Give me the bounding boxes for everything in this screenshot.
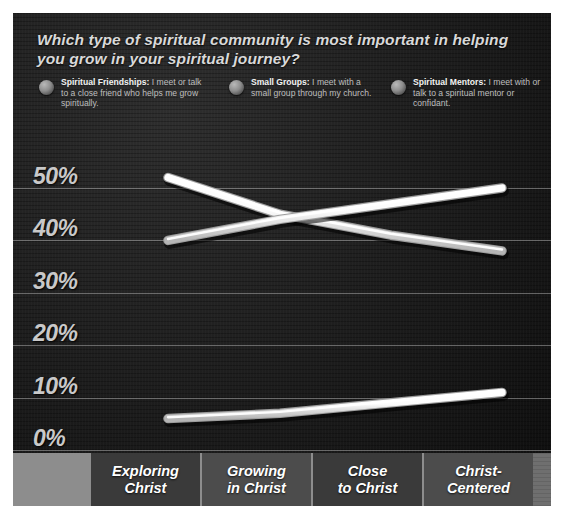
legend-item-label: Spiritual Friendships: — [61, 77, 149, 87]
x-axis-separator — [89, 453, 91, 506]
x-axis-category-label: Christ-Centered — [447, 463, 510, 497]
legend-item-text: Spiritual Mentors: I meet with or talk t… — [413, 77, 549, 109]
x-axis-separator — [200, 453, 202, 506]
legend-item-text: Spiritual Friendships: I meet or talk to… — [61, 77, 207, 109]
series-lines — [13, 138, 551, 453]
legend-bullet-icon — [391, 80, 406, 95]
x-axis-separator — [311, 453, 313, 506]
x-axis-corner-cell — [13, 453, 89, 506]
x-axis-category-label: ExploringChrist — [112, 463, 179, 497]
x-axis-separator — [422, 453, 424, 506]
chart-panel: Which type of spiritual community is mos… — [13, 13, 551, 506]
x-axis-category-growing-in-christ[interactable]: Growingin Christ — [202, 453, 311, 506]
x-axis-band: ExploringChristGrowingin ChristCloseto C… — [13, 453, 551, 506]
legend-bullet-icon — [229, 80, 244, 95]
x-axis-category-christ-centered[interactable]: Christ-Centered — [424, 453, 533, 506]
plot-area: 0%10%20%30%40%50% — [13, 138, 551, 453]
legend: Spiritual Friendships: I meet or talk to… — [27, 77, 551, 129]
x-axis-category-exploring-christ[interactable]: ExploringChrist — [91, 453, 200, 506]
legend-bullet-icon — [39, 80, 54, 95]
legend-item-label: Small Groups: — [251, 77, 310, 87]
x-axis-category-close-to-christ[interactable]: Closeto Christ — [313, 453, 422, 506]
x-axis-category-label: Growingin Christ — [227, 463, 286, 497]
chart-header: Which type of spiritual community is mos… — [13, 13, 551, 138]
question-title: Which type of spiritual community is mos… — [37, 30, 517, 68]
x-axis-category-label: Closeto Christ — [338, 463, 398, 497]
legend-item-text: Small Groups: I meet with a small group … — [251, 77, 375, 98]
infographic-poster: Which type of spiritual community is mos… — [0, 0, 564, 519]
legend-item-label: Spiritual Mentors: — [413, 77, 486, 87]
